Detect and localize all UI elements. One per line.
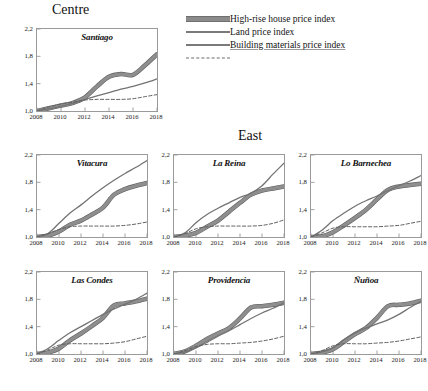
figure-canvas: Centre East High-rise house price index … (0, 0, 428, 391)
x-tick-label: 2014 (232, 356, 245, 363)
series-group-la-reina (174, 155, 284, 237)
plot-area-santiago: Santiago (36, 28, 158, 112)
series-line-high-rise-house-price-index (37, 299, 147, 354)
y-tick-label: 2,2 (162, 268, 171, 275)
series-line-high-rise-house-price-index (311, 184, 421, 237)
x-tick-label: 2010 (188, 239, 201, 246)
y-axis-las-condes: 2,21,81,41,0 (10, 271, 33, 353)
x-tick-label: 2010 (51, 356, 64, 363)
x-tick-label: 2012 (73, 239, 86, 246)
x-tick-label: 2016 (117, 356, 130, 363)
plot-area-la-reina: La Reina (173, 154, 285, 238)
legend-item-highrise: High-rise house price index (186, 12, 426, 25)
x-tick-label: 2016 (254, 239, 267, 246)
legend: High-rise house price index Land price i… (186, 12, 426, 64)
x-tick-label: 2016 (391, 239, 404, 246)
series-group-las-condes (37, 272, 147, 354)
plot-area-lo-barnechea: Lo Barnechea (310, 154, 422, 238)
y-tick-label: 1,8 (162, 178, 171, 185)
x-tick-label: 2010 (53, 113, 66, 120)
series-line-land-price-index (311, 301, 421, 354)
y-tick-label: 2,2 (162, 151, 171, 158)
y-axis-vitacura: 2,21,81,41,0 (10, 154, 33, 236)
y-tick-label: 1,4 (25, 322, 34, 329)
x-tick-label: 2018 (149, 113, 162, 120)
x-tick-label: 2016 (117, 239, 130, 246)
y-tick-label: 1,4 (162, 322, 171, 329)
x-tick-label: 2014 (369, 356, 382, 363)
x-tick-label: 2016 (125, 113, 138, 120)
y-tick-label: 2,2 (25, 151, 34, 158)
y-tick-label: 2,2 (25, 268, 34, 275)
x-tick-label: 2008 (166, 239, 179, 246)
series-group-nunoa (311, 272, 421, 354)
y-tick-label: 1,8 (299, 178, 308, 185)
plot-area-nunoa: Ñuñoa (310, 271, 422, 355)
x-tick-label: 2018 (413, 356, 426, 363)
x-tick-label: 2008 (303, 239, 316, 246)
panel-providencia: 2,21,81,41,0Providencia20082010201220142… (147, 261, 287, 373)
legend-item-dashed-sample (186, 51, 426, 64)
plot-area-las-condes: Las Condes (36, 271, 148, 355)
y-tick-label: 1,4 (25, 205, 34, 212)
x-tick-label: 2012 (347, 356, 360, 363)
series-line-high-rise-house-price-index (37, 54, 157, 111)
panel-lo-barnechea: 2,21,81,41,0Lo Barnechea2008201020122014… (284, 144, 424, 256)
x-tick-label: 2010 (325, 239, 338, 246)
panel-las-condes: 2,21,81,41,0Las Condes200820102012201420… (10, 261, 150, 373)
legend-swatch-building-solid-icon (186, 40, 230, 50)
legend-label-highrise: High-rise house price index (230, 13, 335, 25)
y-tick-label: 1,8 (25, 178, 34, 185)
x-tick-label: 2010 (51, 239, 64, 246)
legend-swatch-land-icon (186, 27, 230, 37)
x-tick-label: 2008 (303, 356, 316, 363)
x-tick-label: 2012 (347, 239, 360, 246)
series-group-lo-barnechea (311, 155, 421, 237)
y-tick-label: 1,8 (162, 295, 171, 302)
legend-item-land: Land price index (186, 25, 426, 38)
y-tick-label: 1,4 (299, 205, 308, 212)
y-axis-lo-barnechea: 2,21,81,41,0 (284, 154, 307, 236)
series-line-building-materials-price-index (174, 336, 284, 354)
y-axis-la-reina: 2,21,81,41,0 (147, 154, 170, 236)
series-line-outline (37, 54, 157, 111)
legend-swatch-building-dashed-icon (186, 53, 230, 63)
y-tick-label: 1,4 (25, 79, 34, 86)
panel-nunoa: 2,21,81,41,0Ñuñoa20082010201220142016201… (284, 261, 424, 373)
x-tick-label: 2012 (210, 356, 223, 363)
y-tick-label: 1,4 (299, 322, 308, 329)
x-tick-label: 2018 (413, 239, 426, 246)
x-tick-label: 2014 (369, 239, 382, 246)
x-tick-label: 2014 (101, 113, 114, 120)
section-title-centre: Centre (52, 2, 89, 18)
panel-santiago: 2,21,81,41,0Santiago20082010201220142016… (10, 18, 160, 130)
panel-la-reina: 2,21,81,41,0La Reina20082010201220142016… (147, 144, 287, 256)
y-tick-label: 1,8 (25, 52, 34, 59)
y-tick-label: 2,2 (299, 268, 308, 275)
x-tick-label: 2012 (73, 356, 86, 363)
y-tick-label: 2,2 (25, 25, 34, 32)
series-line-land-price-index (37, 160, 147, 237)
y-tick-label: 2,2 (299, 151, 308, 158)
series-line-high-rise-house-price-index (174, 186, 284, 237)
x-tick-label: 2014 (95, 356, 108, 363)
series-group-santiago (37, 29, 157, 111)
legend-label-land: Land price index (230, 26, 294, 38)
x-tick-label: 2008 (166, 356, 179, 363)
y-tick-label: 1,4 (162, 205, 171, 212)
y-tick-label: 1,8 (25, 295, 34, 302)
plot-area-providencia: Providencia (173, 271, 285, 355)
x-tick-label: 2010 (325, 356, 338, 363)
x-tick-label: 2010 (188, 356, 201, 363)
x-tick-label: 2016 (391, 356, 404, 363)
x-tick-label: 2012 (210, 239, 223, 246)
legend-swatch-highrise-icon (186, 14, 230, 24)
legend-label-building: Building materials price index (230, 39, 345, 51)
y-axis-providencia: 2,21,81,41,0 (147, 271, 170, 353)
series-group-providencia (174, 272, 284, 354)
y-axis-santiago: 2,21,81,41,0 (10, 28, 33, 110)
x-tick-label: 2014 (232, 239, 245, 246)
section-title-east: East (238, 128, 262, 144)
panel-vitacura: 2,21,81,41,0Vitacura20082010201220142016… (10, 144, 150, 256)
y-tick-label: 1,8 (299, 295, 308, 302)
